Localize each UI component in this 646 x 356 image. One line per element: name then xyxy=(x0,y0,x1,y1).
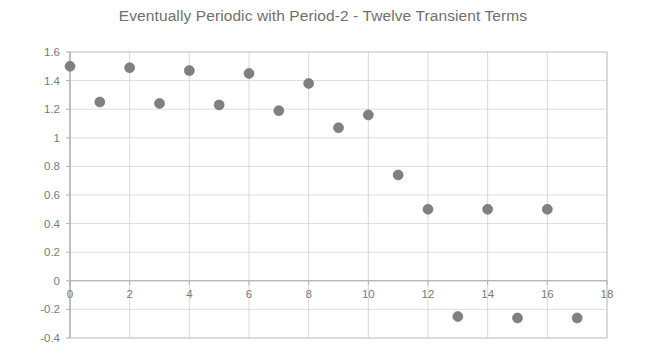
data-point xyxy=(65,61,75,71)
y-tick-label: 1.4 xyxy=(44,75,61,87)
data-point xyxy=(334,123,344,133)
x-tick-label: 10 xyxy=(362,288,375,300)
y-gridlines xyxy=(70,52,607,338)
x-tick-label: 14 xyxy=(481,288,494,300)
y-tick-label: 0.6 xyxy=(44,189,60,201)
x-axis-tick-labels: 024681012141618 xyxy=(67,281,614,300)
data-point xyxy=(423,204,433,214)
y-tick-label: 0.4 xyxy=(44,218,61,230)
y-axis-tick-labels: -0.4-0.200.20.40.60.811.21.41.6 xyxy=(40,46,70,344)
data-point xyxy=(483,204,493,214)
y-tick-label: 0 xyxy=(54,275,60,287)
x-tick-label: 12 xyxy=(422,288,435,300)
y-tick-label: 1.6 xyxy=(44,46,60,58)
data-point xyxy=(304,78,314,88)
x-tick-label: 0 xyxy=(67,288,73,300)
scatter-plot: -0.4-0.200.20.40.60.811.21.41.6 02468101… xyxy=(0,0,646,356)
data-point xyxy=(155,98,165,108)
chart-container: Eventually Periodic with Period-2 - Twel… xyxy=(0,0,646,356)
data-point xyxy=(393,170,403,180)
x-tick-label: 16 xyxy=(541,288,554,300)
x-tick-label: 2 xyxy=(126,288,132,300)
y-tick-label: 0.8 xyxy=(44,160,60,172)
data-point xyxy=(513,313,523,323)
data-point xyxy=(453,312,463,322)
data-point xyxy=(95,97,105,107)
data-point xyxy=(572,313,582,323)
y-tick-label: 1.2 xyxy=(44,103,60,115)
data-point xyxy=(542,204,552,214)
x-tick-label: 8 xyxy=(305,288,311,300)
y-tick-label: -0.4 xyxy=(40,332,60,344)
data-point xyxy=(363,110,373,120)
data-point xyxy=(125,63,135,73)
x-tick-label: 18 xyxy=(601,288,614,300)
data-point xyxy=(214,100,224,110)
y-tick-label: -0.2 xyxy=(40,303,60,315)
data-point xyxy=(184,66,194,76)
y-tick-label: 1 xyxy=(54,132,60,144)
x-tick-label: 6 xyxy=(246,288,252,300)
y-tick-label: 0.2 xyxy=(44,246,60,258)
x-tick-label: 4 xyxy=(186,288,193,300)
data-point xyxy=(244,68,254,78)
data-point xyxy=(274,106,284,116)
data-points xyxy=(65,61,582,323)
